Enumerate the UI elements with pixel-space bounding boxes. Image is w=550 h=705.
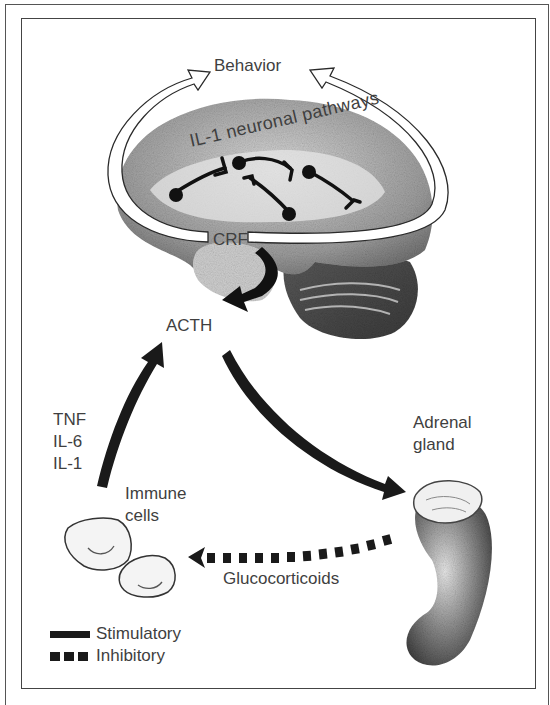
solid-line-swatch [50,631,90,638]
acth-label: ACTH [166,316,212,335]
brain-illustration [117,99,433,339]
glucocorticoids-label: Glucocorticoids [223,569,339,588]
legend-inhibitory: Inhibitory [50,646,165,666]
dotted-line-swatch [50,652,90,661]
acth-to-adrenal-arrow [222,350,406,500]
legend-stimulatory: Stimulatory [50,624,181,644]
adrenal-gland-illustration [406,481,492,666]
immune-cells-illustration [65,518,175,597]
legend-stimulatory-label: Stimulatory [96,624,181,644]
cells-label: cells [125,506,159,525]
adrenal-label: Adrenal [413,413,472,432]
behavior-label: Behavior [214,56,281,75]
il1-label: IL-1 [53,454,82,473]
cytokine-to-acth-arrow [97,342,164,488]
legend-inhibitory-label: Inhibitory [96,646,165,666]
crf-label: CRF [213,230,248,249]
immune-label: Immune [125,484,186,503]
gland-label: gland [413,435,455,454]
tnf-label: TNF [53,410,86,429]
glucocorticoid-inhibitory-arrow [188,534,392,568]
il6-label: IL-6 [53,432,82,451]
